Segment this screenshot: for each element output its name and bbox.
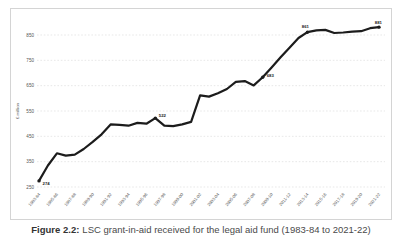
x-tick-label: 2015-16 <box>314 191 328 207</box>
data-point-marker <box>377 25 380 28</box>
figure-caption-prefix: Figure 2.2: <box>31 224 79 235</box>
data-point-marker <box>306 31 309 34</box>
x-tick-label: 2003-04 <box>206 191 220 207</box>
y-tick-label: 750 <box>26 58 34 63</box>
data-point-label: 861 <box>302 24 310 29</box>
x-tick-label: 1993-94 <box>117 191 131 207</box>
x-tick-label: 1999-00 <box>170 191 184 207</box>
y-tick-label: 350 <box>26 159 34 164</box>
x-tick-label: 1995-96 <box>135 191 149 207</box>
x-tick-label: 2007-08 <box>242 191 256 207</box>
x-tick-label: 2017-18 <box>332 191 346 207</box>
x-tick-label: 2013-14 <box>296 191 310 207</box>
data-point-label: 881 <box>375 20 383 25</box>
x-tick-label: 1989-90 <box>81 191 95 207</box>
y-tick-label: 450 <box>26 134 34 139</box>
x-tick-label: 2009-10 <box>260 191 274 207</box>
data-point-marker <box>154 116 157 119</box>
data-point-label: 274 <box>43 181 51 186</box>
y-tick-label: 650 <box>26 83 34 88</box>
y-axis-label: £ million <box>15 102 20 119</box>
x-tick-label: 2005-06 <box>224 191 238 207</box>
x-tick-label: 1985-86 <box>45 191 59 207</box>
x-tick-label: 2011-12 <box>278 191 292 207</box>
data-line <box>39 27 379 181</box>
line-chart: 250350450550650750850£ million1983-84198… <box>11 9 391 219</box>
figure-caption: Figure 2.2:LSC grant-in-aid received for… <box>0 224 402 235</box>
figure-caption-text: LSC grant-in-aid received for the legal … <box>82 224 370 235</box>
x-tick-label: 2019-20 <box>349 191 363 207</box>
y-tick-label: 250 <box>26 185 34 190</box>
x-tick-label: 1987-88 <box>63 191 77 207</box>
y-tick-label: 850 <box>26 33 34 38</box>
x-tick-label: 2021-22 <box>367 191 381 207</box>
y-tick-label: 550 <box>26 109 34 114</box>
x-tick-label: 1991-92 <box>99 191 113 207</box>
x-tick-label: 2001-02 <box>188 191 202 207</box>
x-tick-label: 1983-84 <box>27 191 41 207</box>
data-point-marker <box>37 179 40 182</box>
x-tick-label: 1997-98 <box>153 191 167 207</box>
data-point-label: 522 <box>159 113 167 118</box>
data-point-label: 683 <box>267 73 275 78</box>
chart-panel: 250350450550650750850£ million1983-84198… <box>10 8 392 220</box>
data-point-marker <box>261 76 264 79</box>
